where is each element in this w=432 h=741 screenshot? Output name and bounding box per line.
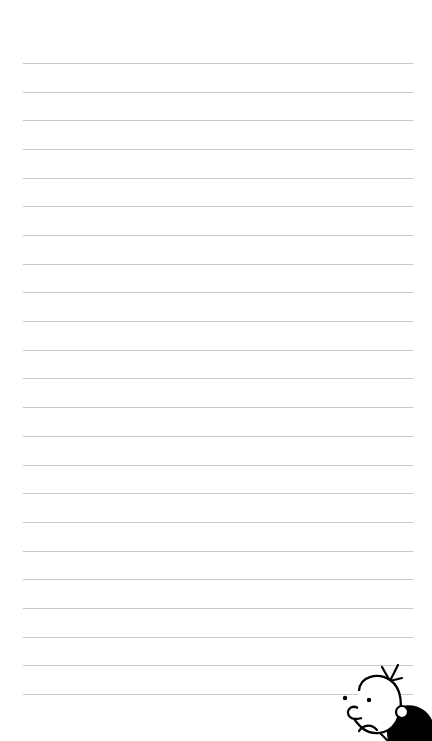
ruled-line [23,149,413,150]
ruled-line [23,350,413,351]
ruled-line [23,120,413,121]
ruled-line [23,522,413,523]
ruled-line [23,493,413,494]
ruled-line [23,264,413,265]
ruled-line [23,378,413,379]
ruled-line [23,436,413,437]
cartoon-boy-icon [325,660,432,741]
ruled-line [23,63,413,64]
ruled-line [23,235,413,236]
ruled-line [23,579,413,580]
ruled-line [23,407,413,408]
ruled-line [23,637,413,638]
notebook-page [0,0,432,741]
ruled-line [23,608,413,609]
ruled-line [23,551,413,552]
ruled-line [23,465,413,466]
ruled-line [23,92,413,93]
ruled-line [23,178,413,179]
ruled-line [23,206,413,207]
ruled-line [23,292,413,293]
ruled-line [23,321,413,322]
